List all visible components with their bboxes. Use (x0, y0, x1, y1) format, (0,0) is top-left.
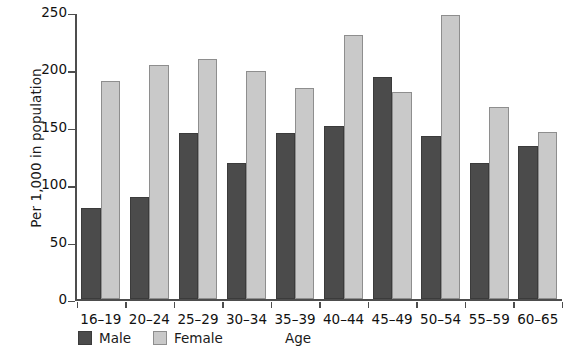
y-axis-tick (68, 71, 75, 72)
x-axis-label: 60–65 (508, 311, 568, 327)
bar-female (295, 88, 314, 299)
legend-item-male: Male (78, 330, 131, 346)
bar-female (538, 132, 557, 300)
bar-male (276, 133, 295, 299)
plot-area: 050100150200250 16–1920–2425–2930–3435–3… (75, 14, 562, 301)
x-axis-tick (77, 302, 78, 308)
bar-male (470, 163, 489, 300)
bar-female (489, 107, 508, 300)
y-axis-tick (68, 129, 75, 130)
bar-male (421, 136, 440, 299)
bar-male (518, 146, 537, 300)
y-axis-title: Per 1,000 in population (28, 48, 44, 248)
male-swatch-icon (78, 331, 92, 345)
bar-male (130, 197, 149, 299)
x-axis-tick (271, 302, 272, 308)
bar-male (227, 163, 246, 300)
y-axis-tick-label: 150 (23, 121, 67, 135)
x-axis-tick (319, 302, 320, 308)
x-axis-tick (174, 302, 175, 308)
legend-item-female: Female (153, 330, 223, 346)
y-axis-tick-label: 50 (23, 236, 67, 250)
bar-male (373, 77, 392, 300)
x-axis-tick (416, 302, 417, 308)
female-swatch-icon (153, 331, 167, 345)
y-axis-tick-label: 100 (23, 178, 67, 192)
chart-legend: MaleFemale (78, 330, 223, 346)
x-axis-title: Age (268, 330, 328, 346)
y-axis-tick (68, 14, 75, 15)
x-axis-tick (513, 302, 514, 308)
y-axis-tick (68, 186, 75, 187)
x-axis-tick (222, 302, 223, 308)
legend-label: Male (99, 330, 131, 346)
x-axis-line (75, 299, 562, 301)
y-axis-tick (68, 301, 75, 302)
bar-female (392, 92, 411, 300)
bar-female (198, 59, 217, 299)
bars-layer (77, 14, 562, 299)
bar-female (344, 35, 363, 299)
x-axis-tick (368, 302, 369, 308)
y-axis-tick-label: 250 (23, 6, 67, 20)
bar-female (149, 65, 168, 299)
bar-male (324, 126, 343, 299)
x-axis-tick (562, 302, 563, 308)
x-axis-tick (125, 302, 126, 308)
y-axis-tick-label: 200 (23, 63, 67, 77)
bar-female (246, 71, 265, 299)
bar-chart: Per 1,000 in population 050100150200250 … (0, 0, 579, 362)
bar-female (101, 81, 120, 299)
y-axis-tick-label: 0 (23, 293, 67, 307)
bar-male (81, 208, 100, 300)
y-axis-tick (68, 244, 75, 245)
bar-female (441, 15, 460, 300)
bar-male (179, 133, 198, 299)
legend-label: Female (174, 330, 223, 346)
x-axis-tick (465, 302, 466, 308)
